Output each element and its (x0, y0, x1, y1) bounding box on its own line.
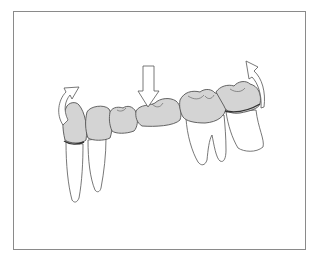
pontic-2 (136, 99, 181, 127)
canine-root (66, 142, 83, 202)
premolar-root (88, 138, 106, 192)
dental-bridge-diagram (0, 0, 316, 257)
canine-crown (63, 103, 87, 143)
downward-force-arrow-icon (138, 66, 159, 107)
molar-root-2 (226, 110, 263, 151)
premolar-crown (86, 106, 113, 140)
